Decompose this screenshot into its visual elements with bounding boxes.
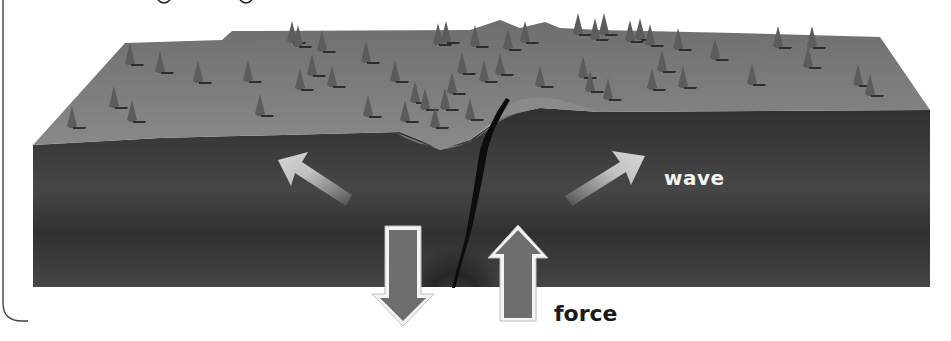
wave-label: wave [664, 166, 725, 190]
force-label: force [554, 301, 618, 326]
bracket-line [3, 0, 28, 321]
earthquake-diagram [0, 0, 951, 341]
cropped-heading-fragment [158, 0, 252, 3]
